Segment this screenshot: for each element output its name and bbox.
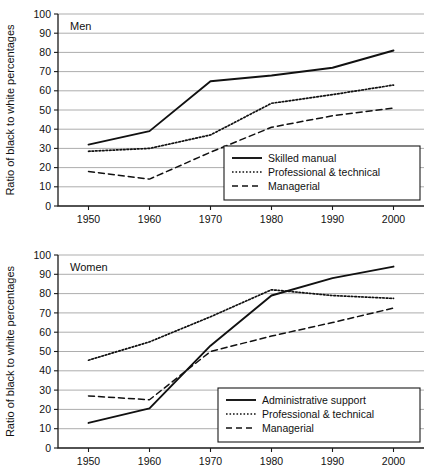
x-tick-label: 1980 — [260, 213, 284, 225]
y-tick-label: 20 — [39, 161, 51, 173]
x-tick-label: 2000 — [382, 213, 406, 225]
series-line-professional-technical — [89, 290, 394, 360]
series-line-professional-technical — [89, 85, 394, 151]
x-tick-label: 1990 — [321, 455, 345, 467]
y-axis-ticks: 0102030405060708090100 — [33, 249, 58, 454]
panel-title: Women — [70, 261, 108, 273]
y-tick-label: 60 — [39, 326, 51, 338]
y-tick-label: 30 — [39, 142, 51, 154]
y-tick-label: 60 — [39, 84, 51, 96]
y-tick-label: 20 — [39, 403, 51, 415]
y-tick-label: 10 — [39, 180, 51, 192]
y-tick-label: 0 — [45, 200, 51, 212]
y-tick-label: 50 — [39, 345, 51, 357]
y-tick-label: 10 — [39, 422, 51, 434]
panel-title: Men — [70, 20, 91, 32]
x-tick-label: 2000 — [382, 455, 406, 467]
chart-svg-men: 0102030405060708090100195019601970198019… — [0, 0, 443, 240]
y-tick-label: 30 — [39, 384, 51, 396]
y-tick-label: 40 — [39, 123, 51, 135]
chart-panel-men: 0102030405060708090100195019601970198019… — [0, 0, 443, 240]
legend-label: Skilled manual — [268, 152, 336, 164]
legend-label: Managerial — [268, 180, 320, 192]
y-tick-label: 70 — [39, 307, 51, 319]
figure-root: 0102030405060708090100195019601970198019… — [0, 0, 443, 473]
y-tick-label: 90 — [39, 27, 51, 39]
x-axis-ticks: 195019601970198019902000 — [77, 448, 406, 467]
x-tick-label: 1950 — [77, 455, 101, 467]
y-tick-label: 50 — [39, 104, 51, 116]
chart-panel-women: 0102030405060708090100195019601970198019… — [0, 240, 443, 473]
x-tick-label: 1970 — [199, 455, 223, 467]
legend: Administrative supportProfessional & tec… — [218, 388, 420, 442]
x-tick-label: 1990 — [321, 213, 345, 225]
y-axis-ticks: 0102030405060708090100 — [33, 8, 58, 212]
x-tick-label: 1950 — [77, 213, 101, 225]
y-tick-label: 0 — [45, 442, 51, 454]
y-tick-label: 100 — [33, 8, 51, 20]
x-tick-label: 1980 — [260, 455, 284, 467]
x-tick-label: 1970 — [199, 213, 223, 225]
series-line-skilled-manual — [89, 50, 394, 144]
legend-label: Administrative support — [262, 394, 366, 406]
x-tick-label: 1960 — [138, 455, 162, 467]
y-tick-label: 70 — [39, 65, 51, 77]
y-axis-title: Ratio of black to white percentages — [4, 24, 16, 196]
y-axis-title: Ratio of black to white percentages — [4, 265, 16, 437]
x-axis-ticks: 195019601970198019902000 — [77, 206, 406, 225]
legend-label: Professional & technical — [262, 408, 374, 420]
y-tick-label: 100 — [33, 249, 51, 261]
chart-svg-women: 0102030405060708090100195019601970198019… — [0, 240, 443, 473]
y-tick-label: 40 — [39, 364, 51, 376]
y-tick-label: 90 — [39, 268, 51, 280]
legend-label: Professional & technical — [268, 166, 380, 178]
legend: Skilled manualProfessional & technicalMa… — [224, 146, 420, 200]
y-tick-label: 80 — [39, 46, 51, 58]
x-tick-label: 1960 — [138, 213, 162, 225]
legend-label: Managerial — [262, 422, 314, 434]
y-tick-label: 80 — [39, 287, 51, 299]
